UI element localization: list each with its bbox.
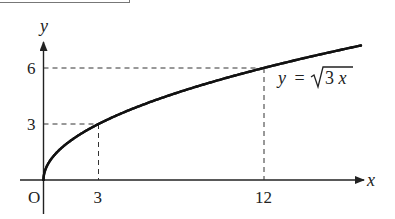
- origin-label: O: [28, 188, 40, 207]
- equation-equals: =: [295, 68, 305, 88]
- y-tick-label-6: 6: [27, 59, 36, 78]
- curve-equation-label: y = 3 x: [276, 67, 353, 88]
- svg-text:3 x: 3 x: [325, 68, 347, 88]
- y-tick-label-3: 3: [27, 115, 36, 134]
- x-tick-label-12: 12: [255, 188, 272, 207]
- curve-overlay: 6 3 3 12 O y x y = 3 x: [0, 0, 395, 219]
- graph-figure: 6 3 3 12 O y x y = 3 x: [0, 0, 395, 219]
- curve-sqrt-3x-smooth: [44, 46, 361, 181]
- svg-text:y =: y =: [276, 68, 305, 88]
- equation-radicand-x: x: [338, 68, 347, 88]
- equation-radicand-3: 3: [325, 68, 334, 88]
- equation-y: y: [276, 68, 286, 88]
- x-tick-label-3: 3: [94, 188, 103, 207]
- y-axis-label: y: [38, 16, 48, 36]
- x-axis-label: x: [366, 170, 375, 190]
